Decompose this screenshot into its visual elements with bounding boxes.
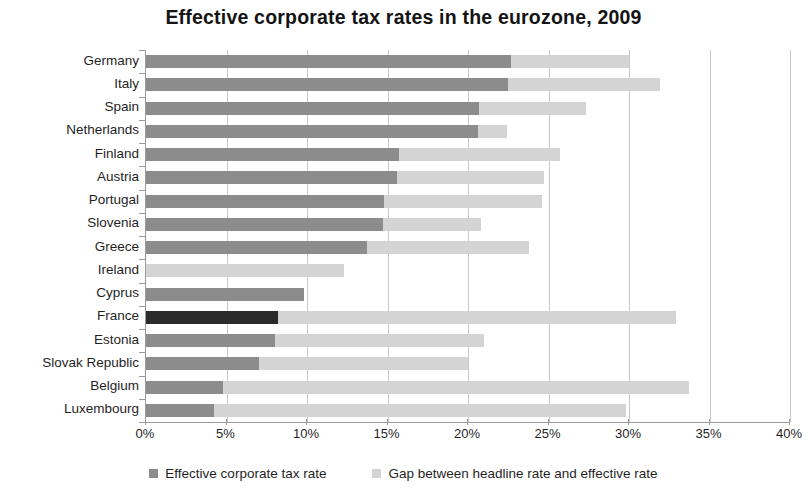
x-axis-label: 5% bbox=[216, 426, 235, 441]
gridline-40% bbox=[790, 50, 791, 422]
y-axis-label: Cyprus bbox=[0, 285, 139, 300]
bar-segment-effective[interactable] bbox=[146, 404, 214, 417]
bar-segment-effective[interactable] bbox=[146, 334, 275, 347]
x-axis-tick bbox=[387, 419, 388, 425]
bar-segment-gap[interactable] bbox=[508, 78, 659, 91]
y-axis-label: Germany bbox=[0, 53, 139, 68]
x-axis-label: 10% bbox=[293, 426, 319, 441]
bar-segment-effective[interactable] bbox=[146, 195, 384, 208]
bar-segment-effective[interactable] bbox=[146, 288, 304, 301]
bar-segment-effective[interactable] bbox=[146, 148, 399, 161]
x-axis-tick bbox=[548, 419, 549, 425]
x-axis-tick bbox=[628, 419, 629, 425]
x-axis-label: 30% bbox=[615, 426, 641, 441]
bar-row[interactable] bbox=[146, 125, 790, 138]
legend-label: Gap between headline rate and effective … bbox=[388, 466, 657, 481]
y-axis-label: Slovenia bbox=[0, 215, 139, 230]
bar-segment-gap[interactable] bbox=[146, 264, 344, 277]
y-axis-label: Austria bbox=[0, 169, 139, 184]
plot-area bbox=[145, 50, 790, 423]
bar-row[interactable] bbox=[146, 404, 790, 417]
bar-row[interactable] bbox=[146, 148, 790, 161]
legend-item[interactable]: Effective corporate tax rate bbox=[149, 466, 326, 481]
y-axis-label: Portugal bbox=[0, 192, 139, 207]
y-axis-label: Italy bbox=[0, 76, 139, 91]
bar-segment-gap[interactable] bbox=[259, 357, 468, 370]
bar-row[interactable] bbox=[146, 334, 790, 347]
bar-segment-gap[interactable] bbox=[278, 311, 676, 324]
bar-row[interactable] bbox=[146, 78, 790, 91]
x-axis-label: 35% bbox=[695, 426, 721, 441]
bar-row[interactable] bbox=[146, 55, 790, 68]
bar-row[interactable] bbox=[146, 171, 790, 184]
y-axis-label: France bbox=[0, 308, 139, 323]
y-axis-label: Belgium bbox=[0, 378, 139, 393]
y-axis-label: Luxembourg bbox=[0, 401, 139, 416]
y-axis-label: Ireland bbox=[0, 262, 139, 277]
bar-row[interactable] bbox=[146, 357, 790, 370]
legend-swatch-effective bbox=[149, 469, 158, 478]
chart-title: Effective corporate tax rates in the eur… bbox=[0, 6, 807, 29]
x-axis-label: 15% bbox=[373, 426, 399, 441]
x-axis-labels: 0%5%10%15%20%25%30%35%40% bbox=[145, 426, 789, 448]
bar-segment-effective[interactable] bbox=[146, 357, 259, 370]
bar-segment-effective[interactable] bbox=[146, 171, 397, 184]
y-axis-labels: GermanyItalySpainNetherlandsFinlandAustr… bbox=[0, 50, 139, 422]
bar-segment-gap[interactable] bbox=[214, 404, 626, 417]
legend-item[interactable]: Gap between headline rate and effective … bbox=[372, 466, 657, 481]
bar-segment-gap[interactable] bbox=[478, 125, 507, 138]
bar-segment-effective[interactable] bbox=[146, 102, 479, 115]
bar-segment-effective[interactable] bbox=[146, 381, 223, 394]
y-axis-label: Greece bbox=[0, 239, 139, 254]
x-axis-tick bbox=[226, 419, 227, 425]
legend-label: Effective corporate tax rate bbox=[165, 466, 326, 481]
x-axis-tick bbox=[789, 419, 790, 425]
bar-row[interactable] bbox=[146, 381, 790, 394]
x-axis-label: 0% bbox=[136, 426, 155, 441]
bar-rows bbox=[146, 50, 790, 422]
x-axis-label: 20% bbox=[454, 426, 480, 441]
x-axis-tick bbox=[306, 419, 307, 425]
x-axis-tick bbox=[145, 419, 146, 425]
bar-segment-gap[interactable] bbox=[367, 241, 530, 254]
y-axis-label: Finland bbox=[0, 146, 139, 161]
x-axis-tick bbox=[709, 419, 710, 425]
legend-swatch-gap bbox=[372, 469, 381, 478]
bar-row[interactable] bbox=[146, 102, 790, 115]
bar-segment-gap[interactable] bbox=[479, 102, 585, 115]
bar-row[interactable] bbox=[146, 264, 790, 277]
y-axis-label: Netherlands bbox=[0, 122, 139, 137]
x-axis-tick bbox=[467, 419, 468, 425]
bar-segment-gap[interactable] bbox=[397, 171, 544, 184]
bar-segment-effective[interactable] bbox=[146, 311, 278, 324]
bar-segment-gap[interactable] bbox=[384, 195, 542, 208]
y-axis-label: Slovak Republic bbox=[0, 355, 139, 370]
bar-segment-gap[interactable] bbox=[275, 334, 484, 347]
bar-segment-gap[interactable] bbox=[399, 148, 560, 161]
bar-segment-gap[interactable] bbox=[383, 218, 481, 231]
bar-segment-effective[interactable] bbox=[146, 125, 478, 138]
bar-row[interactable] bbox=[146, 241, 790, 254]
bar-segment-effective[interactable] bbox=[146, 55, 511, 68]
chart-legend: Effective corporate tax rateGap between … bbox=[0, 466, 807, 481]
bar-segment-effective[interactable] bbox=[146, 78, 508, 91]
chart-container: Effective corporate tax rates in the eur… bbox=[0, 0, 807, 500]
bar-segment-gap[interactable] bbox=[511, 55, 629, 68]
bar-row[interactable] bbox=[146, 288, 790, 301]
x-axis-label: 25% bbox=[534, 426, 560, 441]
y-axis-label: Estonia bbox=[0, 332, 139, 347]
bar-segment-effective[interactable] bbox=[146, 218, 383, 231]
y-axis-label: Spain bbox=[0, 99, 139, 114]
bar-segment-gap[interactable] bbox=[223, 381, 688, 394]
bar-row[interactable] bbox=[146, 195, 790, 208]
bar-row[interactable] bbox=[146, 311, 790, 324]
bar-segment-effective[interactable] bbox=[146, 241, 367, 254]
x-axis-label: 40% bbox=[776, 426, 802, 441]
bar-row[interactable] bbox=[146, 218, 790, 231]
